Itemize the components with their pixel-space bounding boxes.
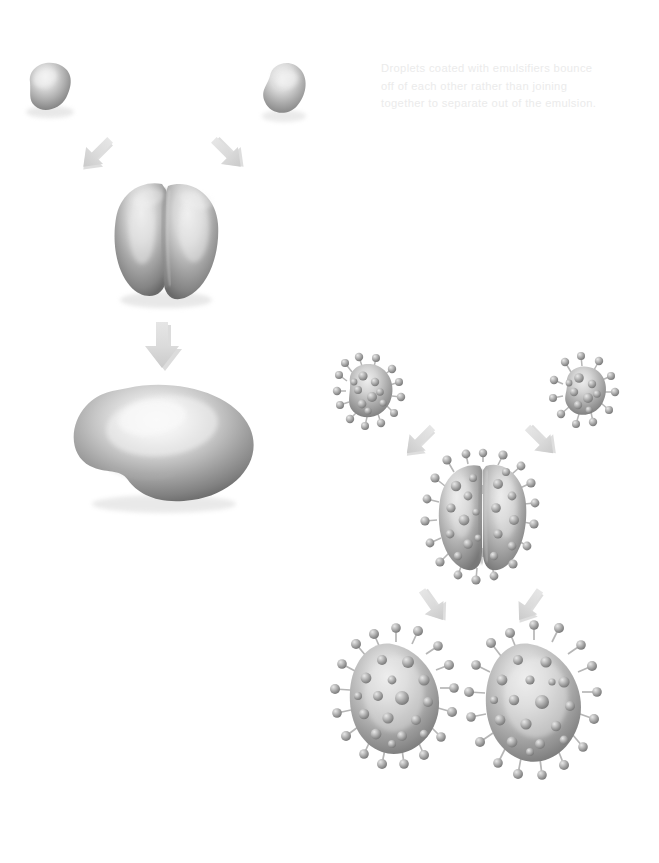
arrow-left-inward <box>74 132 118 176</box>
droplet-pair-merging <box>96 172 236 312</box>
arrow-down-merge <box>139 320 185 372</box>
coated-droplet-pair <box>420 452 546 592</box>
arrow-right-inward <box>206 132 250 176</box>
droplet-coalesced <box>66 382 262 514</box>
illustration-canvas: Droplets coated with emulsifiers bounce … <box>0 0 659 863</box>
caption-text: Droplets coated with emulsifiers bounce … <box>381 60 639 113</box>
coated-droplet-top-left <box>330 352 408 432</box>
arrow-coated-left-outward <box>412 585 454 627</box>
droplet-top-left <box>14 54 84 124</box>
droplet-top-right <box>250 54 320 126</box>
coated-droplet-bottom-right <box>460 620 608 792</box>
coated-droplet-bottom-left <box>328 622 468 784</box>
